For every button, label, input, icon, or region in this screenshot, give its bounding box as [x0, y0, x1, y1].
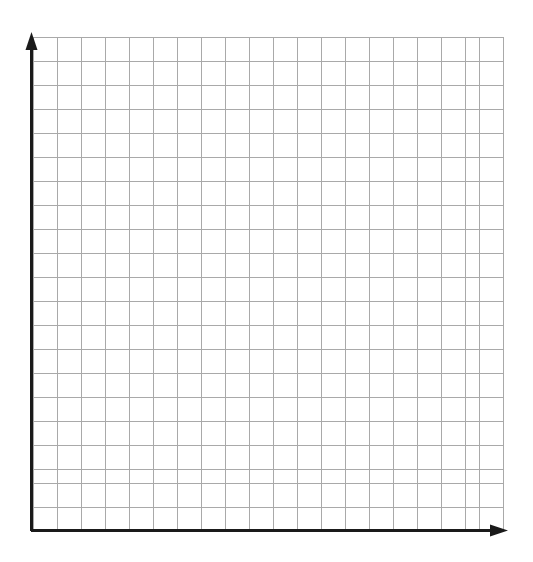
figure-background	[0, 0, 533, 562]
figure-canvas: Blank coordinate grid with arrowed x-axi…	[0, 0, 533, 562]
blank-coordinate-grid	[0, 0, 533, 562]
